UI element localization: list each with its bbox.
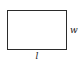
rectangle-dimension-diagram: l w	[0, 0, 82, 66]
rectangle-shape	[7, 10, 67, 50]
length-label: l	[31, 52, 43, 61]
width-label: w	[70, 26, 78, 35]
